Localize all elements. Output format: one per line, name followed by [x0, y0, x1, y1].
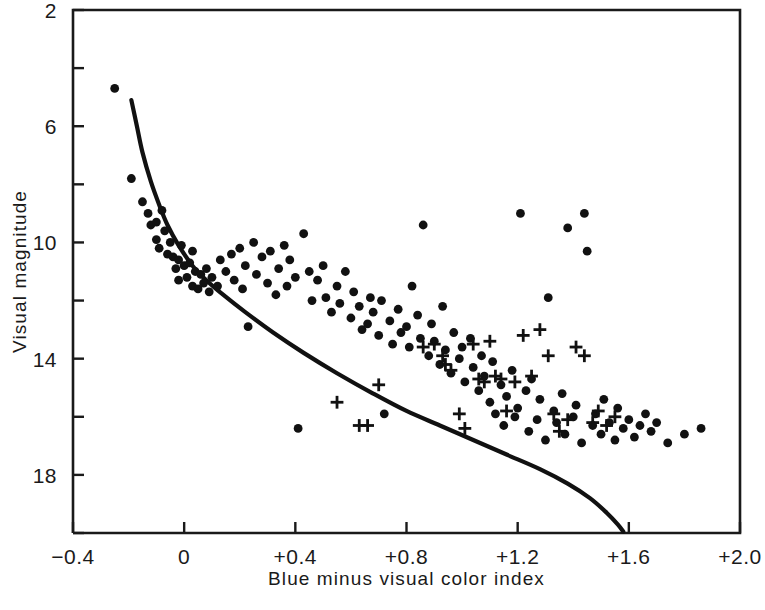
data-point-dot	[516, 209, 525, 218]
data-point-dot	[144, 209, 153, 218]
data-point-dot	[158, 206, 167, 215]
data-point-dot	[680, 430, 689, 439]
data-point-dot	[577, 439, 586, 448]
data-point-dot	[271, 290, 280, 299]
data-point-dot	[366, 293, 375, 302]
data-point-dot	[402, 322, 411, 331]
data-point-dot	[563, 224, 572, 233]
data-point-dot	[244, 322, 253, 331]
data-point-dot	[419, 221, 428, 230]
x-tick-label: +0.4	[274, 545, 317, 568]
data-point-dot	[641, 409, 650, 418]
data-point-dot	[597, 430, 606, 439]
data-point-dot	[438, 302, 447, 311]
y-tick-label: 18	[33, 464, 57, 487]
data-point-dot	[619, 424, 628, 433]
data-point-dot	[199, 279, 208, 288]
data-point-dot	[333, 282, 342, 291]
data-point-dot	[230, 276, 239, 285]
data-point-dot	[160, 226, 169, 235]
data-point-dot	[208, 273, 217, 282]
data-point-dot	[474, 386, 483, 395]
data-point-dot	[241, 261, 250, 270]
y-axis-title: Visual magnitude	[9, 190, 30, 353]
data-point-dot	[216, 255, 225, 264]
data-point-dot	[377, 296, 386, 305]
x-tick-label: −0.4	[51, 545, 94, 568]
data-point-dot	[369, 308, 378, 317]
data-point-dot	[477, 351, 486, 360]
data-point-dot	[183, 273, 192, 282]
plot-svg: 26101418 −0.40+0.4+0.8+1.2+1.6+2.0 Blue …	[0, 0, 765, 610]
data-point-dot	[294, 424, 303, 433]
data-point-dot	[152, 218, 161, 227]
data-point-dot	[274, 264, 283, 273]
data-point-dot	[502, 392, 511, 401]
data-point-dot	[647, 427, 656, 436]
data-point-dot	[283, 282, 292, 291]
data-point-dot	[252, 270, 261, 279]
data-point-dot	[522, 386, 531, 395]
data-point-dot	[510, 412, 519, 421]
data-point-dot	[202, 264, 211, 273]
data-point-dot	[630, 433, 639, 442]
data-point-dot	[374, 331, 383, 340]
data-point-dot	[227, 250, 236, 259]
data-point-dot	[508, 366, 517, 375]
data-point-dot	[213, 282, 222, 291]
data-point-dot	[280, 241, 289, 250]
data-point-dot	[624, 415, 633, 424]
data-point-dot	[110, 84, 119, 93]
data-point-dot	[413, 311, 422, 320]
data-point-dot	[524, 427, 533, 436]
data-point-dot	[185, 258, 194, 267]
data-point-dot	[580, 209, 589, 218]
data-point-dot	[138, 197, 147, 206]
data-point-dot	[285, 255, 294, 264]
x-tick-label: 0	[178, 545, 190, 568]
y-tick-label: 14	[33, 348, 57, 371]
data-point-dot	[572, 401, 581, 410]
data-point-dot	[499, 421, 508, 430]
data-point-dot	[544, 293, 553, 302]
data-point-dot	[455, 354, 464, 363]
x-axis-title: Blue minus visual color index	[268, 568, 545, 589]
data-point-dot	[205, 287, 214, 296]
data-point-dot	[405, 343, 414, 352]
data-point-dot	[388, 340, 397, 349]
x-tick-label: +2.0	[718, 545, 761, 568]
data-point-dot	[513, 404, 522, 413]
data-point-dot	[488, 357, 497, 366]
data-point-dot	[491, 409, 500, 418]
data-point-dot	[177, 241, 186, 250]
data-point-dot	[541, 436, 550, 445]
data-point-dot	[424, 351, 433, 360]
data-point-dot	[380, 409, 389, 418]
data-point-dot	[166, 238, 175, 247]
data-point-dot	[485, 398, 494, 407]
data-point-dot	[249, 238, 258, 247]
y-tick-label: 2	[45, 0, 57, 22]
data-point-dot	[583, 247, 592, 256]
data-point-dot	[313, 276, 322, 285]
data-point-dot	[652, 418, 661, 427]
y-tick-label: 10	[33, 231, 57, 254]
data-point-dot	[636, 421, 645, 430]
data-point-dot	[152, 235, 161, 244]
data-point-dot	[308, 296, 317, 305]
data-point-dot	[363, 319, 372, 328]
data-point-dot	[536, 395, 545, 404]
data-point-dot	[327, 308, 336, 317]
data-point-dot	[221, 267, 230, 276]
data-point-dot	[558, 389, 567, 398]
x-tick-label: +0.8	[385, 545, 428, 568]
data-point-dot	[305, 267, 314, 276]
data-point-dot	[458, 343, 467, 352]
data-point-dot	[238, 285, 247, 294]
data-point-dot	[599, 395, 608, 404]
data-point-dot	[663, 439, 672, 448]
data-point-dot	[355, 302, 364, 311]
data-point-dot	[449, 328, 458, 337]
data-point-dot	[319, 261, 328, 270]
data-point-dot	[349, 287, 358, 296]
